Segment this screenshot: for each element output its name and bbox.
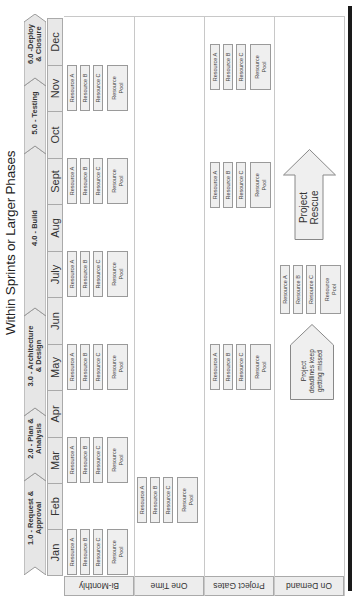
phase-2-chevron: 2.0 - Plan &Analysis	[24, 408, 46, 481]
resource-c-box: Resource C	[163, 477, 173, 523]
pool-line2: Pool	[261, 180, 267, 191]
resource-c-box: Resource C	[93, 158, 103, 204]
resource-c-box: Resource C	[93, 437, 103, 483]
resource-pool-box: ResourcePool	[320, 265, 341, 314]
resource-b-box: Resource B	[80, 65, 90, 111]
month-jun: Jun	[47, 297, 63, 344]
phase-4-chevron: 4.0 - Build	[24, 146, 46, 316]
resource-c-box: Resource C	[236, 44, 246, 90]
resource-a-box: Resource A	[137, 477, 147, 523]
pool-line2: Pool	[118, 547, 124, 558]
pool-line2: Pool	[261, 62, 267, 73]
pool-line1: Resource	[111, 262, 117, 286]
phase-6-line2: & Closure	[34, 26, 43, 67]
callout-line3: getting missed	[316, 350, 323, 392]
phase-3-chevron: 3.0 - Architecture& Design	[24, 308, 46, 416]
row-divider	[274, 16, 275, 596]
callout-line2: deadlines keep	[308, 349, 315, 393]
resource-pool-box: ResourcePool	[107, 437, 128, 483]
resource-pool-box: ResourcePool	[107, 158, 128, 204]
pool-line2: Pool	[261, 362, 267, 373]
month-aug: Aug	[47, 204, 63, 251]
resource-b-box: Resource B	[80, 529, 90, 575]
resource-a-box: Resource A	[280, 265, 290, 314]
resource-b-box: Resource B	[80, 344, 90, 390]
resource-a-box: Resource A	[67, 437, 77, 483]
project-rescue-arrow: Project Rescue	[283, 149, 336, 240]
resource-a-box: Resource A	[67, 65, 77, 111]
resource-c-box: Resource C	[93, 529, 103, 575]
grid-right-border	[64, 16, 344, 17]
pool-line2: Pool	[118, 455, 124, 466]
resource-a-box: Resource A	[210, 344, 220, 390]
month-jan: Jan	[47, 529, 63, 576]
row-divider	[204, 16, 205, 596]
month-may: May	[47, 344, 63, 390]
resource-pool-box: ResourcePool	[107, 344, 128, 390]
phase-3-line2: & Design	[34, 340, 43, 379]
resource-pool-box: ResourcePool	[107, 251, 128, 297]
resource-b-box: Resource B	[80, 437, 90, 483]
resource-pool-box: ResourcePool	[107, 529, 128, 575]
resource-a-box: Resource A	[67, 158, 77, 204]
resource-pool-box: ResourcePool	[250, 44, 271, 90]
resource-c-box: Resource C	[236, 344, 246, 390]
pool-line1: Resource	[111, 448, 117, 472]
month-feb: Feb	[47, 483, 63, 529]
row-label-text: One Time	[151, 581, 188, 591]
pool-line1: Resource	[254, 173, 260, 197]
pool-line1: Resource	[181, 488, 187, 512]
month-oct: Oct	[47, 111, 63, 158]
resource-c-box: Resource C	[93, 65, 103, 111]
row-label-text: Project Gates	[213, 581, 265, 591]
row-label-text: Bi-Monthly	[79, 581, 119, 591]
resource-pool-box: ResourcePool	[250, 162, 271, 208]
pool-line2: Pool	[118, 362, 124, 373]
project-rescue-label: Project Rescue	[295, 175, 323, 240]
phase-5-chevron: 5.0 - Testing	[24, 78, 46, 154]
resource-b-box: Resource B	[223, 344, 233, 390]
pool-line2: Pool	[118, 269, 124, 280]
resource-a-box: Resource A	[67, 344, 77, 390]
resource-pool-box: ResourcePool	[250, 344, 271, 390]
diagram-title: Within Sprints or Larger Phases	[3, 175, 21, 335]
pool-line1: Resource	[324, 278, 330, 302]
resource-pool-box: ResourcePool	[177, 477, 198, 523]
pool-line1: Resource	[254, 55, 260, 79]
phase-1-line2: Approval	[34, 502, 43, 541]
deadlines-missed-callout: Projectdeadlines keepgetting missed	[290, 324, 334, 400]
row-divider	[134, 16, 135, 596]
pool-line2: Pool	[118, 83, 124, 94]
resource-c-box: Resource C	[236, 162, 246, 208]
row-label-text: On Demand	[286, 581, 332, 591]
pool-line2: Pool	[331, 284, 337, 295]
pool-line2: Pool	[118, 176, 124, 187]
pool-line1: Resource	[111, 169, 117, 193]
phase-5-label: 5.0 - Testing	[31, 91, 39, 140]
month-sept: Sept	[47, 158, 63, 204]
resource-c-box: Resource C	[306, 265, 316, 314]
phase-resource-diagram: Within Sprints or Larger Phases 1.0 - Re…	[0, 0, 360, 597]
resource-b-box: Resource B	[150, 477, 160, 523]
resource-a-box: Resource A	[67, 251, 77, 297]
phase-4-label: 4.0 - Build	[31, 210, 39, 252]
phase-1-chevron: 1.0 - Request &Approval	[24, 473, 46, 575]
pool-line1: Resource	[111, 540, 117, 564]
callout-line1: Project	[300, 361, 307, 381]
resource-c-box: Resource C	[93, 344, 103, 390]
phase-2-line2: Analysis	[34, 423, 43, 460]
row-label-on-demand: On Demand	[274, 576, 344, 596]
row-label-bi-monthly: Bi-Monthly	[64, 576, 134, 596]
resource-a-box: Resource A	[210, 44, 220, 90]
phase-6-chevron: 6.0 -Deploy& Closure	[24, 14, 46, 86]
resource-a-box: Resource A	[67, 529, 77, 575]
row-label-one-time: One Time	[134, 576, 204, 596]
month-july: July	[47, 251, 63, 297]
month-apr: Apr	[47, 390, 63, 437]
resource-b-box: Resource B	[80, 251, 90, 297]
resource-a-box: Resource A	[210, 162, 220, 208]
resource-c-box: Resource C	[93, 251, 103, 297]
row-label-project-gates: Project Gates	[204, 576, 274, 596]
pool-line1: Resource	[111, 355, 117, 379]
month-nov: Nov	[47, 65, 63, 111]
